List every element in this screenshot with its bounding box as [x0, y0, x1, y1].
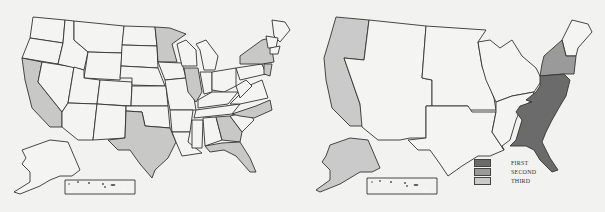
legend: FIRST SECOND THIRD [474, 158, 536, 185]
legend-swatch-third [474, 177, 491, 185]
legend-swatch-first [474, 159, 491, 167]
state-florida [205, 142, 256, 172]
state-new-jersey [264, 64, 272, 76]
state-colorado [97, 80, 132, 106]
state-arizona [62, 103, 97, 140]
legend-label-second: SECOND [511, 169, 536, 175]
region-new-england [562, 20, 592, 56]
state-alaska [14, 140, 80, 194]
legend-item-second: SECOND [474, 167, 536, 176]
state-ohio [212, 68, 236, 92]
legend-label-third: THIRD [511, 178, 530, 184]
state-wisconsin [177, 40, 197, 66]
us-states-map [0, 0, 300, 212]
legend-label-first: FIRST [511, 160, 528, 166]
legend-item-third: THIRD [474, 176, 536, 185]
legend-swatch-second [474, 168, 491, 176]
state-south-dakota [121, 45, 158, 68]
state-arkansas [170, 110, 193, 132]
state-michigan [196, 40, 218, 70]
state-wyoming [84, 52, 122, 80]
state-vermont-nh [266, 36, 278, 48]
state-mississippi [192, 120, 203, 148]
state-north-dakota [122, 26, 157, 46]
legend-item-first: FIRST [474, 158, 536, 167]
state-pennsylvania [236, 64, 266, 80]
state-kansas [131, 86, 168, 106]
region-alaska [316, 138, 380, 192]
state-new-mexico [93, 104, 126, 140]
us-regions-map [300, 0, 605, 212]
